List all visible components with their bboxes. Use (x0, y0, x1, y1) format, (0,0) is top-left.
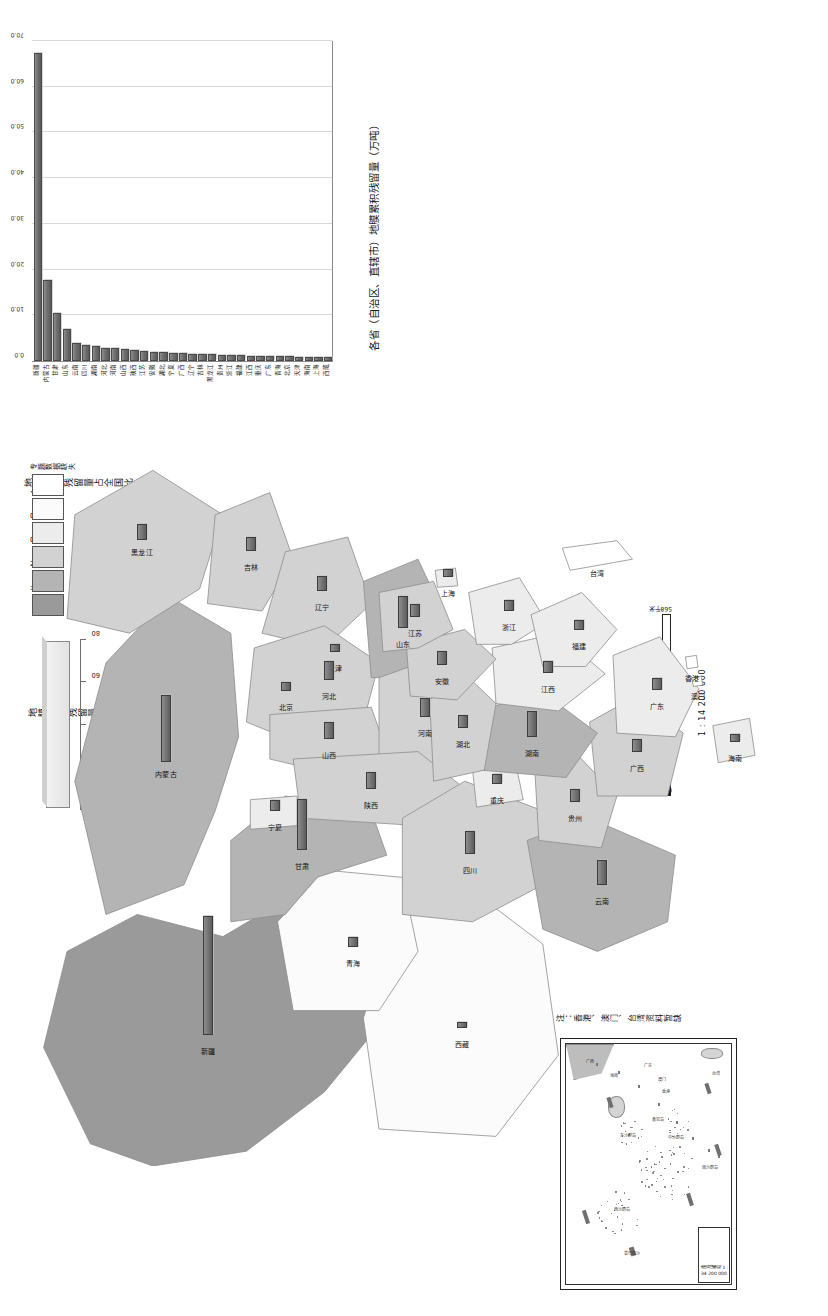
chart-bar (237, 355, 245, 361)
chart-bar (34, 53, 42, 361)
inset-island-dot (622, 1223, 623, 1224)
inset-place-label: 中沙群岛 (668, 1134, 684, 1140)
province-value-bar (161, 695, 171, 762)
inset-island-dot (636, 1225, 637, 1226)
inset-boundary-dash (658, 1103, 660, 1106)
chart-category-label: 四川 (82, 364, 88, 376)
province-value-bar (366, 772, 376, 789)
inset-island-dot (684, 1194, 685, 1195)
province-value-bar (317, 576, 327, 591)
province-label: 广西 (630, 763, 645, 773)
chart-category-label: 山东 (63, 364, 69, 376)
chart-bar (247, 356, 255, 361)
inset-island-dot (684, 1153, 685, 1154)
inset-island-dot (674, 1127, 675, 1128)
chart-gridline (32, 86, 332, 87)
chart-bar (92, 346, 100, 361)
chart-category-label: 江苏 (140, 364, 146, 376)
chart-bar (63, 329, 71, 361)
province-value-bar (652, 678, 662, 690)
chart-gridline (32, 223, 332, 224)
map-canvas: 新疆内蒙古甘肃山东云南四川湖南河北河南山西陕西江苏安徽湖北宁夏广西辽宁吉林黑龙江… (0, 0, 828, 1316)
province-value-bar (324, 661, 334, 680)
inset-island-dot (647, 1179, 648, 1180)
inset-island-dot (669, 1150, 670, 1151)
province-label: 湖南 (525, 748, 540, 758)
chart-category-label: 福建 (237, 364, 243, 376)
province-label: 内蒙古 (154, 768, 177, 778)
chart-bar (227, 355, 235, 361)
province-value-bar (527, 711, 537, 738)
chart-axis-tick: 40.0 (11, 169, 24, 176)
province-value-bar (574, 620, 584, 630)
bar-chart-panel: 新疆内蒙古甘肃山东云南四川湖南河北河南山西陕西江苏安徽湖北宁夏广西辽宁吉林黑龙江… (18, 20, 418, 450)
inset-boundary-dash (618, 1071, 620, 1074)
inset-taiwan (701, 1048, 723, 1059)
province-label: 湖北 (455, 739, 470, 749)
province-label: 重庆 (490, 794, 505, 804)
province-value-bar (203, 916, 213, 1036)
chart-category-label: 新疆 (34, 364, 40, 376)
province-label: 陕西 (363, 800, 378, 810)
inset-island-dot (601, 1205, 602, 1206)
chart-bar (43, 280, 51, 361)
chart-gridline (32, 40, 332, 41)
chart-category-label: 甘肃 (53, 364, 59, 376)
province-label: 四川 (462, 865, 477, 875)
inset-island-dot (668, 1118, 669, 1119)
chart-gridline (32, 177, 332, 178)
inset-island-dot (688, 1121, 689, 1122)
inset-island-dot (621, 1142, 622, 1143)
inset-island-dot (628, 1199, 629, 1200)
inset-island-dot (618, 1203, 619, 1204)
inset-island-dot (659, 1161, 660, 1162)
inset-place-label: 广东 (644, 1062, 652, 1068)
chart-bar (295, 357, 303, 361)
province-value-bar (597, 860, 607, 885)
chart-category-label: 天津 (295, 364, 301, 376)
province-value-bar (281, 682, 291, 692)
map-note: 注：香港、澳门、台湾资料暂缺 (556, 1013, 736, 1024)
inset-island-dot (601, 1221, 602, 1222)
inset-island-dot (687, 1129, 688, 1130)
province-value-bar (730, 734, 740, 742)
chart-bar (208, 354, 216, 361)
province-label: 北京 (279, 702, 294, 712)
inset-island-dot (638, 1137, 639, 1138)
chart-category-label: 黑龙江 (208, 364, 214, 382)
inset-place-label: 香港 (662, 1088, 670, 1094)
chart-category-label: 浙江 (227, 364, 233, 376)
province-label: 台湾 (589, 567, 604, 577)
province-label: 吉林 (244, 561, 259, 571)
province-label: 安徽 (435, 675, 450, 685)
inset-island-dot (671, 1154, 672, 1155)
chart-axis-tick: 30.0 (11, 215, 24, 222)
province-label: 广东 (649, 700, 664, 710)
chart-axis-tick: 70.0 (11, 32, 24, 39)
chart-category-label: 湖北 (160, 364, 166, 376)
chart-category-label: 广东 (266, 364, 272, 376)
province-value-bar (410, 604, 420, 617)
inset-island-dot (673, 1154, 674, 1155)
south-china-sea-inset: 东沙群岛西沙群岛中沙群岛南沙群岛黄岩岛海南广东广西台湾曾母暗沙澳门香港 南海诸岛… (560, 1038, 737, 1290)
chart-axis-tick: 0.0 (14, 352, 24, 359)
inset-island-dot (626, 1144, 627, 1145)
province-value-bar (465, 831, 475, 854)
inset-boundary-dash (638, 1085, 640, 1088)
inset-island-dot (661, 1156, 662, 1157)
inset-island-dot (632, 1127, 633, 1128)
province-value-bar (504, 600, 514, 612)
chart-bar (53, 313, 61, 361)
chart-category-label: 上海 (314, 364, 320, 376)
inset-place-label: 南沙群岛 (702, 1164, 718, 1170)
chart-bar (82, 345, 90, 361)
inset-island-dot (605, 1227, 606, 1228)
inset-island-dot (660, 1152, 661, 1153)
inset-island-mark (686, 1193, 694, 1207)
inset-island-dot (664, 1168, 665, 1169)
chart-bar (101, 348, 109, 361)
chart-category-label: 云南 (73, 364, 79, 376)
province-label: 河南 (418, 728, 433, 738)
chart-bar (218, 355, 226, 361)
inset-island-dot (641, 1129, 642, 1130)
